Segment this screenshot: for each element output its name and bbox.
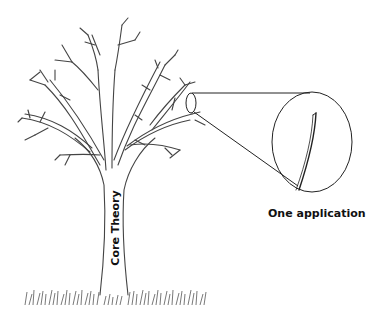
- magnified-twig: [296, 113, 316, 190]
- one-application-label: One application: [268, 207, 366, 220]
- trunk-right-edge: [123, 138, 155, 295]
- magnifier: [186, 92, 352, 192]
- grass: [25, 290, 206, 305]
- small-highlight-circle: [186, 93, 196, 113]
- trunk-left-edge: [75, 138, 105, 295]
- tree-diagram: [0, 0, 373, 330]
- core-theory-label: Core Theory: [109, 190, 122, 265]
